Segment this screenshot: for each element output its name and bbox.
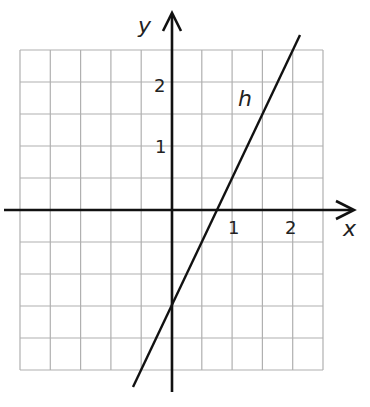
x-axis-label: x [342,216,357,241]
x-tick-label-1: 1 [228,217,239,238]
y-tick-label-2: 2 [154,75,165,96]
y-tick-label-1: 1 [155,136,166,157]
line-h-label: h [238,86,252,111]
y-axis-label: y [137,13,152,38]
x-tick-label-2: 2 [285,217,296,238]
coordinate-graph: y x h 1 2 1 2 [0,0,370,407]
